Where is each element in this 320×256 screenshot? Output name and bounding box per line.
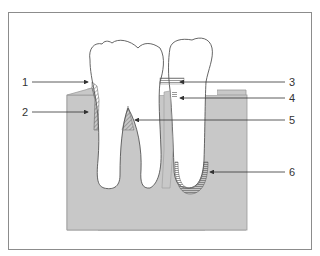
label-5: 5 — [289, 115, 295, 126]
dental-diagram: 1 2 3 4 5 6 — [0, 0, 320, 256]
label-1: 1 — [22, 77, 28, 88]
label-3: 3 — [289, 77, 295, 88]
label-4: 4 — [289, 93, 295, 104]
diagram-canvas — [0, 0, 320, 256]
label-2: 2 — [22, 107, 28, 118]
transseptal-fibers — [160, 78, 184, 84]
label-6: 6 — [289, 167, 295, 178]
alveolar-crest-fibers — [172, 91, 177, 98]
